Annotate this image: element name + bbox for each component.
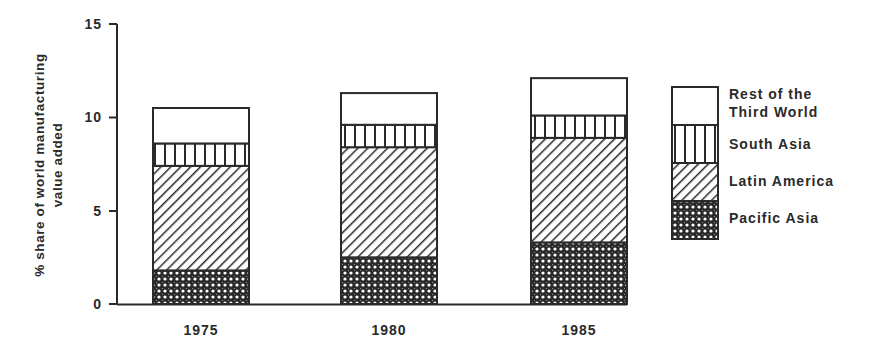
bar-segment-latin-america [153, 166, 249, 271]
legend-label-latin-america: Latin America [729, 173, 834, 189]
legend-label-pacific-asia: Pacific Asia [729, 210, 819, 226]
bar-segment-south-asia [153, 143, 249, 165]
stacked-bar-chart: 15 10 5 0 % share of world manufacturing… [0, 0, 869, 358]
legend: Rest of the Third World South Asia Latin… [672, 86, 834, 239]
legend-label-rest-line-2: Third World [729, 104, 818, 120]
bar-segment-south-asia [341, 125, 437, 147]
bar-1980 [341, 93, 437, 304]
bar-segment-south-asia [531, 115, 627, 137]
y-axis: 15 10 5 0 [84, 16, 117, 312]
y-axis-title: % share of world manufacturing value add… [32, 53, 65, 277]
legend-label-rest-line-1: Rest of the [729, 86, 812, 102]
bar-segment-latin-america [531, 138, 627, 243]
x-tick-label: 1980 [371, 322, 406, 338]
x-tick-label: 1975 [183, 322, 218, 338]
bar-1975 [153, 108, 249, 304]
legend-swatch-pacific-asia [672, 201, 718, 239]
y-tick-label: 0 [93, 296, 102, 312]
bar-segment-latin-america [341, 147, 437, 257]
bar-segment-rest-of-the-third-world [531, 78, 627, 115]
y-tick-label: 15 [84, 16, 102, 32]
legend-label-south-asia: South Asia [729, 136, 812, 152]
y-axis-title-line-1: % share of world manufacturing [32, 53, 47, 277]
y-tick-label: 5 [93, 203, 102, 219]
y-axis-title-line-2: value added [50, 123, 65, 208]
bar-segment-pacific-asia [341, 257, 437, 304]
bar-1985 [531, 78, 627, 304]
bar-segment-pacific-asia [531, 242, 627, 304]
bar-segment-rest-of-the-third-world [341, 93, 437, 125]
legend-swatch-south-asia [672, 125, 718, 163]
legend-swatch-rest [672, 87, 718, 125]
bar-segment-pacific-asia [153, 270, 249, 304]
bar-segment-rest-of-the-third-world [153, 108, 249, 143]
y-tick-label: 10 [84, 109, 102, 125]
x-tick-label: 1985 [561, 322, 596, 338]
bars [153, 78, 627, 304]
legend-swatch-latin-america [672, 163, 718, 201]
